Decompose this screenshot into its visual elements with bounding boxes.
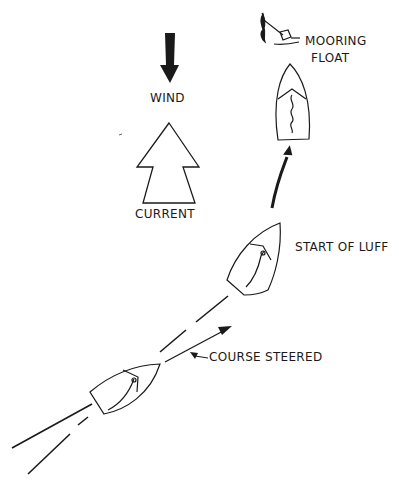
wind-arrow-icon — [160, 33, 179, 83]
mooring-float-label-line2: FLOAT — [311, 51, 350, 65]
sailboat-icon — [227, 223, 280, 295]
sailboat-icon — [90, 364, 160, 414]
approach-arrow — [272, 144, 295, 208]
start-of-luff-label: START OF LUFF — [295, 240, 389, 254]
mooring-float-label-line1: MOORING — [305, 34, 367, 48]
track-lines — [12, 296, 228, 474]
course-steered-label: COURSE STEERED — [209, 350, 322, 364]
mooring-float-icon — [261, 13, 300, 44]
current-arrow-icon — [137, 123, 199, 203]
sailboat-icon — [276, 64, 310, 140]
wind-label: WIND — [150, 91, 185, 105]
current-label: CURRENT — [135, 207, 195, 221]
stray-mark — [119, 134, 122, 135]
